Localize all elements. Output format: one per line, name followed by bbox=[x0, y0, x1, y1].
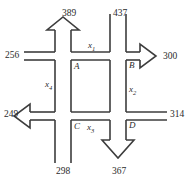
node-label-B: B bbox=[129, 61, 135, 70]
flow-label-389: 389 bbox=[62, 9, 76, 19]
variable-x4-sub: 4 bbox=[49, 84, 52, 91]
arrowhead-300 bbox=[140, 44, 156, 68]
node-label-D: D bbox=[129, 121, 136, 130]
flow-label-256: 256 bbox=[5, 51, 19, 61]
variable-x2-sub: 2 bbox=[133, 89, 136, 96]
flow-label-314: 314 bbox=[170, 110, 184, 120]
road-bottom-horizontal bbox=[30, 112, 167, 120]
variable-x3-sub: 3 bbox=[91, 127, 94, 134]
flow-label-298: 298 bbox=[56, 167, 70, 177]
flow-label-437: 437 bbox=[113, 9, 127, 19]
traffic-network-figure: 389 437 256 300 249 314 298 367 A B C D … bbox=[0, 0, 190, 184]
road-top-horizontal bbox=[24, 52, 140, 60]
node-label-A: A bbox=[74, 62, 80, 71]
flow-label-249: 249 bbox=[4, 110, 18, 120]
flow-label-300: 300 bbox=[163, 52, 177, 62]
arrowhead-389 bbox=[47, 17, 79, 30]
flow-label-367: 367 bbox=[112, 167, 126, 177]
network-diagram-svg bbox=[0, 0, 190, 184]
node-label-C: C bbox=[74, 122, 80, 131]
road-left-vertical bbox=[55, 30, 71, 163]
variable-label-x3: x3 bbox=[87, 123, 94, 134]
variable-label-x1: x1 bbox=[88, 41, 95, 52]
variable-label-x2: x2 bbox=[129, 85, 136, 96]
road-right-vertical bbox=[110, 14, 126, 140]
variable-x1-sub: 1 bbox=[92, 45, 95, 52]
variable-label-x4: x4 bbox=[45, 80, 52, 91]
arrowhead-367 bbox=[102, 140, 134, 158]
